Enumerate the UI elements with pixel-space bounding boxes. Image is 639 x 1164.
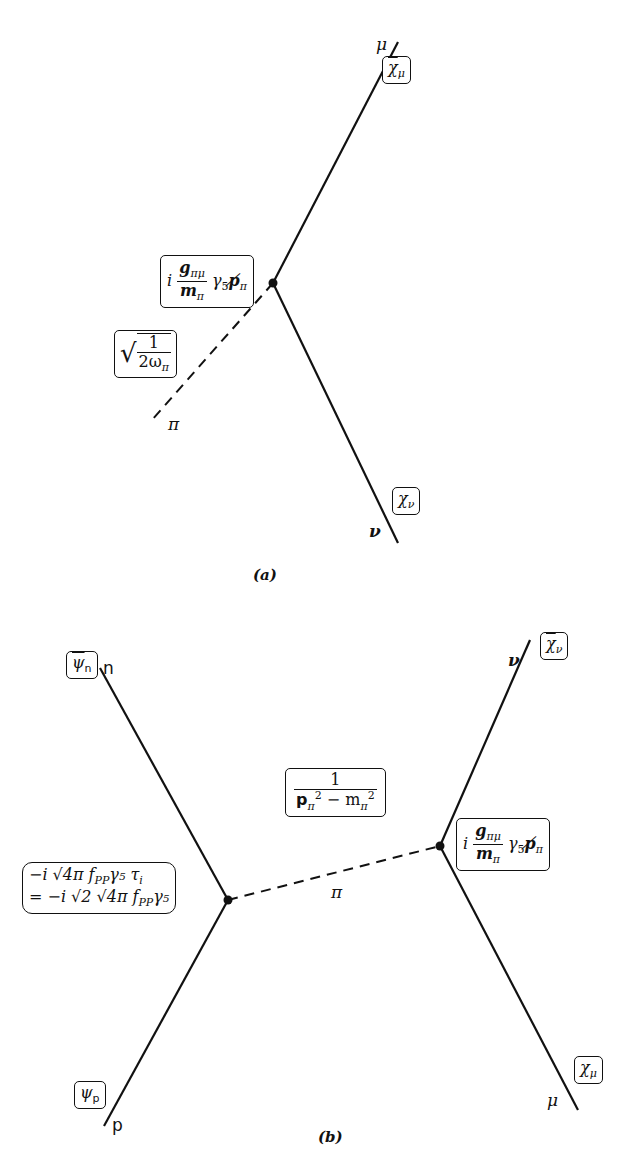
vertex-factor-box-b: i gπμ mπ γ5p̸π [456,818,550,871]
propagator-box: 1 pπ2 − mπ2 [285,768,386,817]
mu-line-label-b: μ [547,1092,558,1109]
chi-mu-box: χμ [574,1056,603,1084]
n-line-label: n [103,660,114,677]
pion-normalization-box: √ 1 2ωπ [114,330,177,378]
nu-line-label-a: ν [369,523,381,540]
chi-bar-mu-box: χμ [382,56,411,84]
chi-bar-nu-box: χν [540,632,568,660]
caption-a: (a) [253,566,277,584]
left-vertex-factor-box: −i √4π fPPγ₅ τi = −i √2 √4π fPPγ₅ [22,862,176,914]
caption-b: (b) [318,1128,343,1146]
mu-line-label: μ [376,36,387,53]
pi-line-label-b: π [331,884,342,901]
diagram-lines [0,0,639,1164]
p-line-label: p [112,1117,123,1134]
psi-bar-n-box: ψn [66,651,98,679]
pi-line-label-a: π [168,416,179,433]
psi-p-box: ψp [74,1081,106,1109]
chi-nu-box: χν [392,487,420,515]
vertex-factor-box-a: i gπμ mπ γ5p̸π [160,255,254,308]
nu-line-label-b: ν [508,652,520,669]
